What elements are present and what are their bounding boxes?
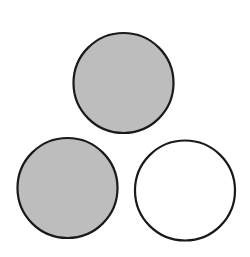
- three-circles-diagram: [0, 0, 250, 257]
- circle-bottom-right-unshaded: [135, 141, 235, 241]
- circle-bottom-left-shaded: [18, 138, 118, 238]
- circle-top-shaded: [74, 33, 174, 133]
